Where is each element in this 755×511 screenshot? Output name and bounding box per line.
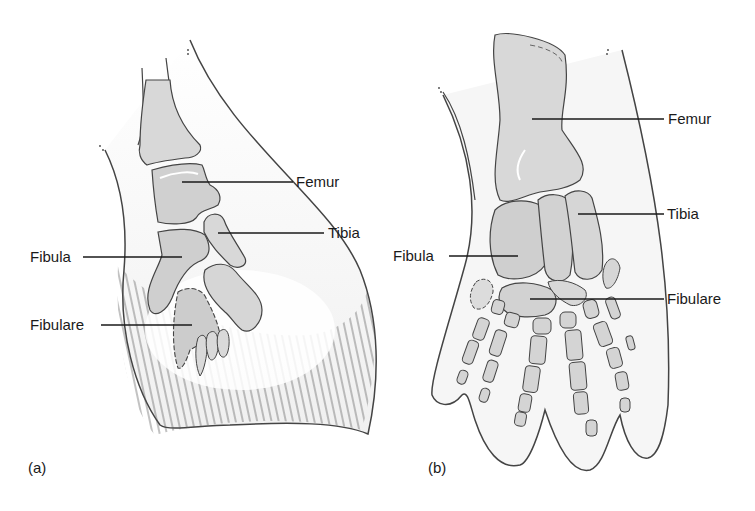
label-femur-b: Femur: [668, 111, 711, 126]
label-tibia-a: Tibia: [328, 225, 360, 240]
panel-label-a: (a): [28, 460, 46, 475]
panel-label-b: (b): [428, 460, 446, 475]
anatomy-figure: Femur Tibia Fibula Fibulare (a) Femur Ti…: [0, 0, 755, 511]
label-fibula-a: Fibula: [30, 249, 71, 264]
label-fibula-b: Fibula: [393, 248, 434, 263]
label-fibulare-b: Fibulare: [667, 291, 721, 306]
label-femur-a: Femur: [296, 174, 339, 189]
label-fibulare-a: Fibulare: [30, 317, 84, 332]
figure-svg: [0, 0, 755, 511]
label-tibia-b: Tibia: [667, 206, 699, 221]
panel-a-fin: [83, 40, 400, 450]
panel-b-hand: [432, 34, 669, 471]
